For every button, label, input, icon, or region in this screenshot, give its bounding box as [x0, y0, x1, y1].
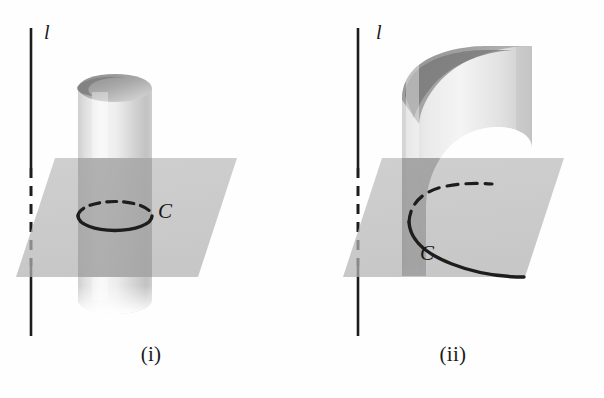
curve-label-c: C — [158, 201, 172, 222]
figure-root: l C (i) — [0, 0, 604, 398]
intersecting-plane-ii — [343, 158, 564, 278]
curve-label-c: C — [420, 243, 434, 264]
panel-caption-ii: (ii) — [302, 342, 604, 367]
panel-cylinder-ellipse: l C (i) — [0, 0, 302, 398]
axis-label-l: l — [376, 22, 382, 42]
panel-caption-i: (i) — [0, 342, 302, 367]
panel-parabolic-cylinder: l C (ii) — [302, 0, 604, 398]
axis-label-l: l — [44, 22, 50, 42]
intersecting-plane-i — [16, 158, 237, 277]
panel-i-graphic — [0, 0, 302, 398]
panel-ii-graphic — [302, 0, 604, 398]
